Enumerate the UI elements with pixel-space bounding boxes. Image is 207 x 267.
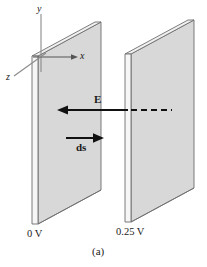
left-plate — [32, 22, 101, 224]
electric-field-label: E — [94, 94, 101, 105]
figure-caption: (a) — [92, 246, 104, 257]
y-axis-label: y — [37, 4, 41, 14]
right-plate-potential-label: 0.25 V — [116, 227, 144, 238]
left-plate-front-face — [38, 22, 101, 224]
z-axis-label: z — [6, 72, 10, 82]
parallel-plate-capacitor-diagram — [0, 0, 207, 267]
left-plate-side-face — [32, 56, 38, 224]
figure-container: y x z E ds 0 V 0.25 V (a) — [0, 0, 207, 267]
right-plate-front-face — [131, 20, 194, 222]
displacement-label: ds — [76, 142, 86, 153]
right-plate-side-face — [125, 54, 131, 222]
right-plate — [125, 20, 194, 222]
left-plate-potential-label: 0 V — [27, 229, 42, 240]
x-axis-label: x — [80, 51, 84, 61]
